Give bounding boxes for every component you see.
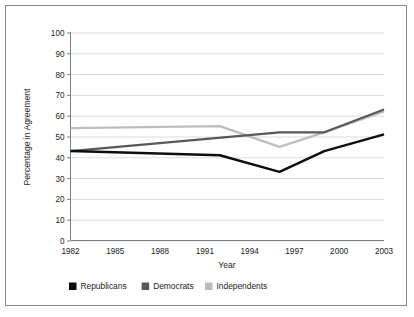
y-tick-label: 90	[55, 50, 65, 59]
x-tick-label: 1982	[61, 247, 80, 256]
line-chart: 0102030405060708090100 19821985198819911…	[0, 0, 414, 317]
x-axis-title: Year	[218, 260, 236, 270]
x-tick-label: 1985	[106, 247, 125, 256]
y-tick-label: 80	[55, 71, 65, 80]
legend-swatch-democrats	[142, 283, 150, 291]
x-tick-label: 1997	[285, 247, 304, 256]
chart-figure: 0102030405060708090100 19821985198819911…	[0, 0, 414, 317]
y-tick-label: 40	[55, 154, 65, 163]
y-tick-label: 30	[55, 175, 65, 184]
y-tick-label: 60	[55, 112, 65, 121]
series-line-independents	[71, 112, 385, 147]
x-tick-label: 2000	[330, 247, 349, 256]
series-line-democrats	[71, 109, 385, 151]
y-tick-label: 20	[55, 195, 65, 204]
x-tick-label: 1994	[241, 247, 260, 256]
series-line-republicans	[71, 134, 385, 171]
legend-label-republicans: Republicans	[81, 281, 127, 291]
legend-label-democrats: Democrats	[153, 281, 194, 291]
y-tick-label: 10	[55, 216, 65, 225]
legend-swatch-independents	[205, 283, 213, 291]
x-tick-label: 1988	[151, 247, 170, 256]
y-axis-tick-labels: 0102030405060708090100	[51, 29, 65, 246]
chart-legend: RepublicansDemocratsIndependents	[69, 281, 267, 291]
y-axis-title: Percentage in Agreement	[22, 88, 32, 186]
y-tick-label: 70	[55, 91, 65, 100]
y-axis-ticks	[67, 33, 71, 241]
legend-label-independents: Independents	[217, 281, 268, 291]
y-tick-label: 0	[60, 237, 65, 246]
data-series-group	[71, 109, 385, 171]
y-tick-label: 100	[51, 29, 65, 38]
y-tick-label: 50	[55, 133, 65, 142]
x-axis-tick-labels: 19821985198819911994199720002003	[61, 247, 393, 256]
x-tick-label: 1991	[196, 247, 215, 256]
x-tick-label: 2003	[375, 247, 394, 256]
legend-swatch-republicans	[69, 283, 77, 291]
